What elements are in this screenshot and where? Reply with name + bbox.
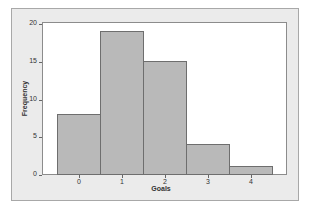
x-tick-label: 4	[246, 178, 256, 185]
x-tick-label: 0	[74, 178, 84, 185]
y-tick-label: 20	[23, 19, 37, 26]
histogram-bar-0	[57, 114, 101, 175]
y-tick-label: 5	[23, 132, 37, 139]
histogram-bar-3	[186, 144, 230, 175]
y-tick-mark	[39, 175, 42, 176]
y-tick-mark	[39, 100, 42, 101]
x-tick-label: 3	[203, 178, 213, 185]
histogram-bar-1	[100, 31, 144, 175]
y-tick-mark	[39, 62, 42, 63]
histogram-bar-4	[229, 166, 273, 175]
x-axis-label: Goals	[141, 185, 181, 192]
y-tick-mark	[39, 24, 42, 25]
y-tick-label: 0	[23, 170, 37, 177]
plot-area	[42, 22, 287, 175]
y-tick-label: 15	[23, 57, 37, 64]
x-tick-label: 2	[160, 178, 170, 185]
x-tick-label: 1	[117, 178, 127, 185]
histogram-bar-2	[143, 61, 187, 175]
y-tick-label: 10	[23, 95, 37, 102]
y-tick-mark	[39, 137, 42, 138]
